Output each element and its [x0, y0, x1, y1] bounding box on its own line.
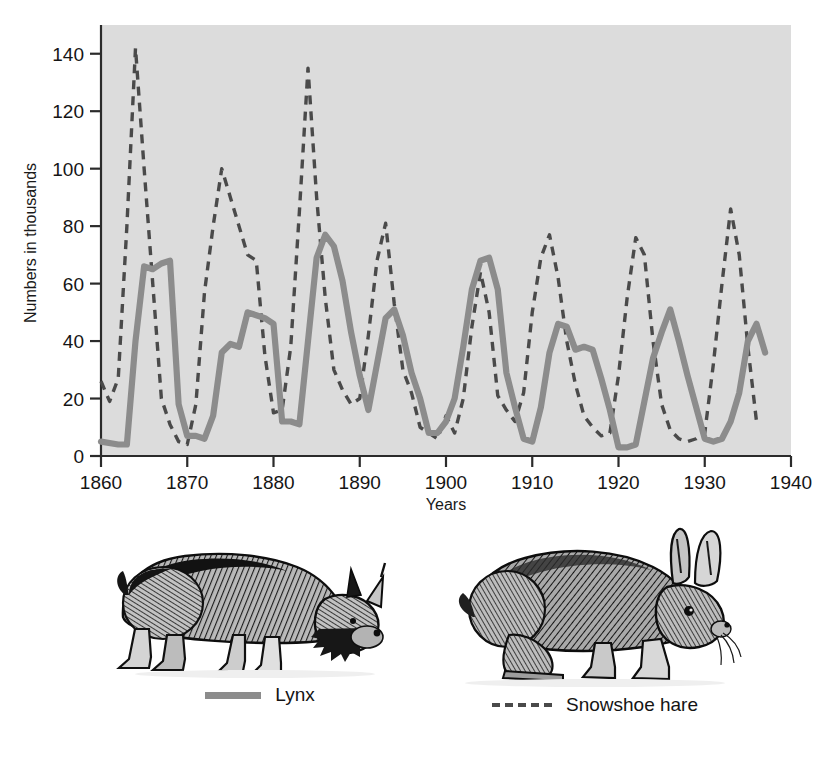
y-axis-ticks: 020406080100120140	[52, 44, 101, 467]
plot-background	[101, 25, 791, 456]
lynx-ear-left	[347, 569, 361, 597]
y-tick-label: 20	[63, 389, 84, 410]
lynx-tail	[117, 571, 129, 595]
x-axis-title: Years	[426, 496, 466, 513]
y-tick-label: 100	[52, 159, 84, 180]
chart-container: 020406080100120140 186018701880189019001…	[0, 0, 827, 530]
y-tick-label: 60	[63, 274, 84, 295]
y-axis-title: Numbers in thousands	[22, 163, 39, 323]
lynx-ear-right	[367, 577, 383, 607]
legend-item-snowshoe-hare: Snowshoe hare	[430, 694, 760, 716]
lynx-eye	[350, 618, 356, 624]
lynx-figure-cell: Lynx	[110, 525, 410, 706]
x-tick-label: 1930	[684, 472, 726, 493]
x-tick-label: 1940	[770, 472, 812, 493]
x-tick-label: 1910	[511, 472, 553, 493]
lynx-hind-foot-far	[119, 629, 151, 668]
hare-whiskers	[717, 633, 741, 665]
legend-label-snowshoe-hare: Snowshoe hare	[566, 694, 698, 716]
hare-rump	[469, 571, 545, 647]
hare-head	[656, 585, 724, 648]
legend-label-lynx: Lynx	[275, 684, 314, 706]
hare-nose	[724, 622, 729, 627]
lynx-muzzle	[351, 626, 383, 648]
population-cycle-chart: 020406080100120140 186018701880189019001…	[0, 0, 827, 530]
hare-ground-shadow	[465, 679, 725, 687]
y-tick-label: 120	[52, 101, 84, 122]
y-tick-label: 40	[63, 331, 84, 352]
figure-root: 020406080100120140 186018701880189019001…	[0, 0, 827, 759]
hare-ear-near	[695, 531, 720, 586]
x-tick-label: 1900	[425, 472, 467, 493]
x-tick-label: 1890	[339, 472, 381, 493]
x-axis-ticks: 186018701880189019001910192019301940	[80, 456, 812, 493]
legend-swatch-hare-line	[492, 703, 552, 707]
legend-and-illustrations: Lynx	[0, 525, 827, 759]
lynx-ear-tuft	[381, 563, 385, 577]
legend-item-lynx: Lynx	[110, 684, 410, 706]
x-tick-label: 1880	[252, 472, 294, 493]
lynx-ground-shadow	[135, 670, 375, 678]
hare-eye-highlight	[689, 608, 692, 611]
x-tick-label: 1860	[80, 472, 122, 493]
hare-figure-cell: Snowshoe hare	[430, 525, 760, 716]
hare-eye	[684, 606, 694, 616]
x-tick-label: 1920	[597, 472, 639, 493]
lynx-hind-foot-near	[153, 635, 185, 670]
y-tick-label: 80	[63, 216, 84, 237]
y-tick-label: 140	[52, 44, 84, 65]
x-tick-label: 1870	[166, 472, 208, 493]
legend-swatch-lynx-line	[205, 692, 261, 699]
snowshoe-hare-illustration	[445, 525, 745, 690]
y-tick-label: 0	[73, 446, 84, 467]
hare-ear-far	[671, 529, 690, 584]
lynx-illustration	[115, 525, 405, 680]
lynx-nose	[374, 630, 381, 637]
